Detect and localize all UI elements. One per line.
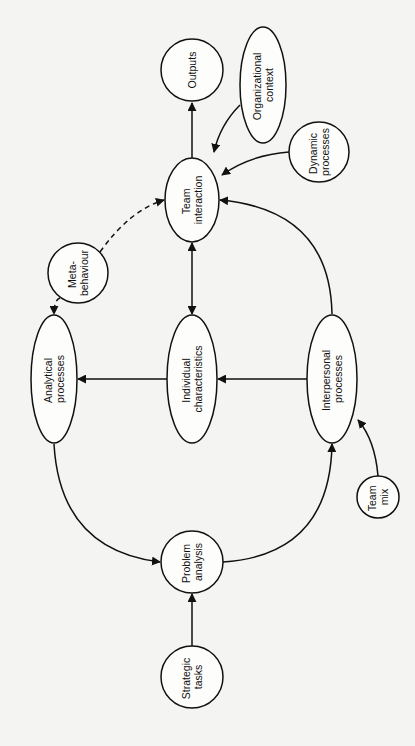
node-individual-characteristics: Individual characteristics bbox=[167, 315, 217, 443]
svg-text:Interpersonal processes: Interpersonal processes bbox=[320, 347, 344, 411]
node-label: Team bbox=[366, 485, 378, 511]
node-outputs: Outputs bbox=[161, 39, 223, 101]
node-label: Interpersonal bbox=[320, 350, 332, 411]
node-strategic-tasks: Strategic tasks bbox=[161, 646, 223, 708]
node-label: Strategic bbox=[180, 658, 192, 699]
edge-problem-analysis-to-interpersonal bbox=[223, 444, 332, 562]
node-label: analysis bbox=[192, 543, 204, 581]
node-label: context bbox=[263, 68, 275, 102]
node-team-interaction: Team interaction bbox=[165, 158, 219, 242]
node-label: interaction bbox=[192, 176, 204, 225]
node-label: Meta- bbox=[66, 261, 78, 288]
node-label: behaviour bbox=[78, 249, 90, 296]
edge-team-mix-to-interpersonal bbox=[358, 420, 378, 476]
edge-dynamic-to-team-interaction bbox=[222, 152, 289, 175]
node-meta-behaviour: Meta- behaviour bbox=[48, 243, 108, 303]
node-problem-analysis: Problem analysis bbox=[161, 531, 223, 593]
node-organizational-context: Organizational context bbox=[240, 27, 286, 143]
edge-analytical-to-problem-analysis bbox=[54, 444, 160, 562]
edge-meta-to-team-interaction bbox=[100, 200, 164, 252]
node-dynamic-processes: Dynamic processes bbox=[289, 122, 349, 182]
svg-text:Dynamic processes: Dynamic processes bbox=[307, 128, 331, 176]
node-label: mix bbox=[378, 488, 390, 505]
node-label: Analytical bbox=[42, 358, 54, 403]
edge-org-context-to-team-interaction bbox=[214, 105, 240, 152]
edge-meta-to-analytical bbox=[54, 298, 60, 314]
node-label: Dynamic bbox=[307, 133, 319, 174]
node-interpersonal-processes: Interpersonal processes bbox=[307, 315, 357, 443]
node-team-mix: Team mix bbox=[357, 476, 399, 518]
svg-text:Outputs: Outputs bbox=[186, 52, 198, 89]
node-label: processes bbox=[54, 355, 66, 403]
node-label: Team bbox=[180, 188, 192, 214]
svg-text:Individual characteristi: Individual characteristics bbox=[180, 345, 204, 412]
svg-text:Analytical processes: Analytical processes bbox=[42, 355, 66, 403]
node-label: processes bbox=[332, 355, 344, 403]
team-model-diagram: Outputs Organizational context Dynamic p… bbox=[0, 0, 415, 746]
node-analytical-processes: Analytical processes bbox=[31, 315, 77, 443]
edge-interpersonal-to-team-interaction bbox=[220, 200, 332, 314]
node-label: processes bbox=[319, 128, 331, 176]
node-label: tasks bbox=[192, 665, 204, 690]
node-label: Problem bbox=[180, 544, 192, 583]
node-label: Individual bbox=[180, 358, 192, 402]
node-label: characteristics bbox=[192, 345, 204, 412]
svg-text:Problem analysis: Problem analysis bbox=[180, 541, 204, 583]
node-label: Organizational bbox=[251, 53, 263, 121]
node-label: Outputs bbox=[186, 52, 198, 89]
